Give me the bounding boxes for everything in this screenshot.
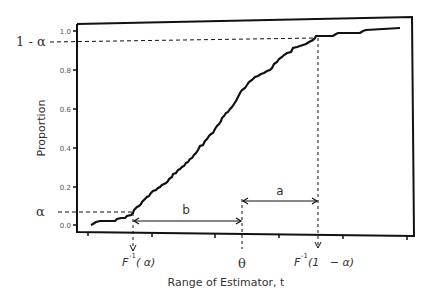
y-tick-label: 0.4 (60, 145, 72, 153)
upper-quantile-sup: -1 (301, 252, 308, 260)
upper-quantile-f: F (294, 256, 301, 269)
distance-b-arrow (134, 218, 241, 224)
distance-a-label: a (276, 184, 283, 198)
ecdf-chart: 0.0 0.2 0.4 0.6 0.8 1.0 Proportion Range… (0, 0, 434, 306)
one-minus-alpha-dashed-line (50, 38, 316, 42)
ecdf-curve (91, 28, 400, 225)
y-tick-label: 0.2 (60, 184, 71, 192)
lower-quantile-label: F -1 ( α) (122, 252, 155, 269)
y-tick-label: 0.6 (60, 106, 72, 114)
distance-a-arrow (243, 198, 317, 204)
y-tick-label: 0.0 (60, 222, 71, 230)
x-axis-title: Range of Estimator, t (168, 276, 286, 289)
y-axis-title: Proportion (35, 100, 48, 157)
upper-quantile-label: F -1 (1 − α) (294, 252, 354, 269)
y-axis-tick-labels: 0.0 0.2 0.4 0.6 0.8 1.0 (60, 28, 72, 230)
upper-quantile-arg: (1 − α) (308, 256, 354, 269)
y-tick-label: 1.0 (60, 28, 71, 36)
y-tick-label: 0.8 (60, 67, 71, 75)
lower-quantile-f: F (122, 256, 129, 269)
lower-quantile-arg: ( α) (136, 256, 155, 269)
distance-b-label: b (182, 203, 190, 217)
lower-quantile-sup: -1 (129, 252, 136, 260)
one-minus-alpha-label: 1 - α (16, 34, 46, 49)
theta-label: θ (238, 256, 246, 271)
alpha-label: α (36, 204, 45, 219)
